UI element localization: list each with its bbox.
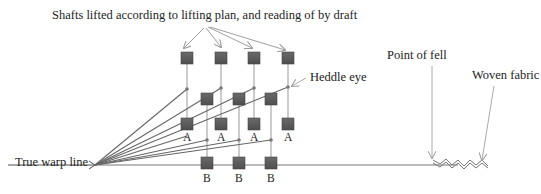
title-label: Shafts lifted according to lifting plan,… [52,8,357,23]
warp-line-label: True warp line [15,155,88,170]
woven-fabric-label: Woven fabric [472,68,539,83]
title-arrows [184,27,285,50]
shaft-label-b: B [203,172,211,184]
middle-shafts [201,93,277,105]
shaft-label-a: A [284,131,292,143]
shaft-label-a: A [183,131,191,143]
point-of-fell-label: Point of fell [387,48,447,63]
a-shafts [181,118,294,130]
shaft-label-a: A [250,131,258,143]
shaft-label-b: B [235,172,243,184]
woven-fabric [433,159,488,169]
top-shafts [181,52,294,64]
shaft-label-b: B [267,172,275,184]
shaft-label-a: A [217,131,225,143]
heddle-eye-label: Heddle eye [310,70,367,85]
b-shafts [201,157,277,169]
